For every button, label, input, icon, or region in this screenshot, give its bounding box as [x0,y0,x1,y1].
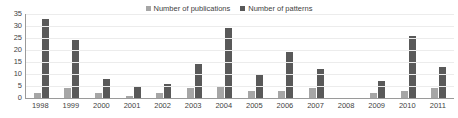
bar-patterns [409,36,416,98]
y-axis-tick-label: 30 [14,22,22,30]
x-axis-tick-label: 2004 [208,100,239,116]
x-axis-tick-label: 2003 [178,100,209,116]
x-axis-tick-label: 2010 [392,100,423,116]
x-axis-tick-label: 1999 [56,100,87,116]
legend-item-patterns: Number of patterns [240,4,312,13]
bar-publications [278,91,285,98]
gridline [26,86,454,87]
y-axis: 35302520151050 [0,14,24,98]
legend-label-publications: Number of publications [154,4,231,13]
legend-swatch-publications [146,6,151,11]
legend-item-publications: Number of publications [146,4,231,13]
x-axis-tick-label: 2005 [239,100,270,116]
x-axis-tick-label: 1998 [25,100,56,116]
x-axis-tick-label: 2006 [270,100,301,116]
x-axis-tick-label: 2007 [300,100,331,116]
y-axis-tick-label: 5 [18,82,22,90]
y-axis-tick-label: 10 [14,70,22,78]
bar-publications [187,88,194,98]
bar-publications [217,86,224,98]
bar-publications [248,91,255,98]
bar-patterns [103,79,110,98]
x-axis-tick-label: 2002 [147,100,178,116]
plot-area [25,14,454,99]
legend-swatch-patterns [240,6,245,11]
chart-legend: Number of publications Number of pattern… [0,2,458,14]
legend-label-patterns: Number of patterns [248,4,312,13]
gridline [26,26,454,27]
x-axis-tick-label: 2011 [423,100,454,116]
gridline [26,98,454,99]
bar-patterns [195,64,202,98]
x-axis: 1998199920002001200220032004200520062007… [25,100,453,116]
bar-publications [431,88,438,98]
gridline [26,74,454,75]
bar-publications [309,88,316,98]
x-axis-tick-label: 2000 [86,100,117,116]
bar-publications [401,91,408,98]
plot-area-wrapper: 35302520151050 1998199920002001200220032… [0,14,458,118]
y-axis-tick-label: 20 [14,46,22,54]
y-axis-tick-label: 25 [14,34,22,42]
gridline [26,50,454,51]
bar-patterns [286,52,293,98]
gridline [26,14,454,15]
x-axis-tick-label: 2001 [117,100,148,116]
bar-patterns [439,67,446,98]
bar-patterns [378,81,385,98]
bar-publications [64,88,71,98]
x-axis-tick-label: 2009 [361,100,392,116]
gridline [26,38,454,39]
y-axis-tick-label: 0 [18,94,22,102]
gridline [26,62,454,63]
x-axis-tick-label: 2008 [331,100,362,116]
bar-chart: Number of publications Number of pattern… [0,0,458,118]
y-axis-tick-label: 15 [14,58,22,66]
y-axis-tick-label: 35 [14,10,22,18]
bar-patterns [134,86,141,98]
